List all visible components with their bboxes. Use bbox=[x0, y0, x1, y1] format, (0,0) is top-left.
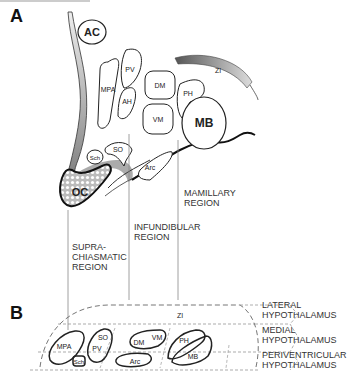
label-suprachiasmatic-2: CHIASMATIC bbox=[72, 252, 127, 262]
label-mb: MB bbox=[195, 116, 214, 130]
label-mpa: MPA bbox=[101, 86, 116, 93]
label-suprachiasmatic-3: REGION bbox=[72, 262, 108, 272]
label-ah: AH bbox=[122, 98, 132, 105]
b-label-so: SO bbox=[98, 334, 109, 341]
panel-label-b: B bbox=[10, 303, 23, 323]
b-label-pv: PV bbox=[92, 345, 102, 352]
b-label-mpa: MPA bbox=[57, 343, 72, 350]
label-zi: ZI bbox=[215, 67, 221, 74]
zone-medial-1: MEDIAL bbox=[262, 325, 296, 335]
label-suprachiasmatic-1: SUPRA- bbox=[72, 242, 106, 252]
b-label-zi: ZI bbox=[177, 312, 183, 319]
b-label-mb: MB bbox=[188, 353, 199, 360]
b-label-vm: VM bbox=[152, 334, 163, 341]
label-so: SO bbox=[113, 146, 124, 153]
label-arc: Arc bbox=[145, 164, 156, 171]
label-mamillary-2: REGION bbox=[184, 198, 220, 208]
hypothalamus-diagram: AC PV MPA AH DM VM PH MB ZI Sch SO Arc O… bbox=[0, 0, 347, 380]
panel-a: AC PV MPA AH DM VM PH MB ZI Sch SO Arc O… bbox=[60, 12, 258, 330]
panel-label-a: A bbox=[10, 6, 23, 26]
label-sch: Sch bbox=[90, 155, 100, 161]
b-label-ph: PH bbox=[179, 337, 189, 344]
label-ph: PH bbox=[183, 90, 193, 97]
label-infundibular-2: REGION bbox=[134, 232, 170, 242]
label-ac: AC bbox=[84, 26, 100, 38]
b-label-arc: Arc bbox=[130, 358, 141, 365]
label-oc: OC bbox=[72, 186, 89, 198]
label-infundibular-1: INFUNDIBULAR bbox=[134, 222, 201, 232]
panel-b: MPA SO PV Sch DM VM Arc ZI PH MB LATERAL… bbox=[30, 300, 347, 370]
label-mamillary-1: MAMILLARY bbox=[184, 188, 236, 198]
label-vm: VM bbox=[153, 116, 164, 123]
zone-medial-2: HYPOTHALAMUS bbox=[262, 335, 337, 345]
zone-periventricular-2: HYPOTHALAMUS bbox=[262, 360, 337, 370]
label-dm: DM bbox=[155, 82, 166, 89]
zone-periventricular-1: PERIVENTRICULAR bbox=[262, 350, 347, 360]
zone-lateral-1: LATERAL bbox=[262, 300, 301, 310]
b-label-sch: Sch bbox=[74, 359, 84, 365]
b-label-dm: DM bbox=[134, 339, 145, 346]
label-pv: PV bbox=[125, 66, 135, 73]
zone-lateral-2: HYPOTHALAMUS bbox=[262, 310, 337, 320]
